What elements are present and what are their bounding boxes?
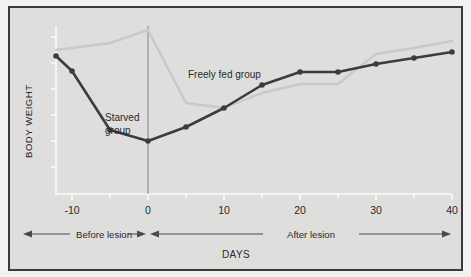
x-tick-label-2: 10 <box>218 204 230 216</box>
starved-group-label-line1: Starved <box>105 112 139 123</box>
x-tick-label-1: 0 <box>145 204 151 216</box>
before-lesion-annotation: Before lesion <box>23 229 146 240</box>
x-tick-label-5: 40 <box>446 204 458 216</box>
x-tick-label-3: 20 <box>294 204 306 216</box>
x-tick-label-4: 30 <box>370 204 382 216</box>
plot-area: Starved group Freely fed group BODY WEIG… <box>10 8 461 269</box>
before-lesion-label: Before lesion <box>76 229 132 240</box>
x-axis-title: DAYS <box>222 249 250 260</box>
line-chart: Starved group Freely fed group BODY WEIG… <box>10 8 461 269</box>
figure-panel: Starved group Freely fed group BODY WEIG… <box>8 6 463 271</box>
x-axis-ticks <box>72 194 452 200</box>
y-axis-title: BODY WEIGHT <box>23 84 34 158</box>
after-lesion-annotation: After lesion <box>150 229 451 240</box>
starved-group-label-line2: group <box>105 125 131 136</box>
x-tick-label-0: -10 <box>64 204 79 216</box>
freely-fed-group-label: Freely fed group <box>188 69 261 80</box>
after-lesion-label: After lesion <box>287 229 335 240</box>
